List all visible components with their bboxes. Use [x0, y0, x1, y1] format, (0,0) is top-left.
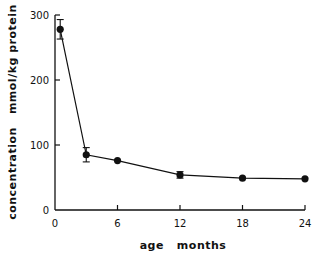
data-point [301, 175, 308, 182]
line-chart: 061218240100200300 age months concentrat… [0, 0, 319, 258]
x-tick-label: 0 [52, 218, 58, 229]
y-tick-label: 300 [30, 10, 49, 21]
y-tick-label: 100 [30, 140, 49, 151]
axes: 061218240100200300 [30, 10, 311, 229]
data-point [83, 151, 90, 158]
y-tick-label: 200 [30, 75, 49, 86]
x-tick-label: 12 [174, 218, 187, 229]
data-point [176, 171, 183, 178]
data-point [57, 26, 64, 33]
y-axis-title: concentration mmol/kg protein [6, 4, 19, 220]
x-axis-title: age months [140, 239, 227, 252]
data-point [114, 157, 121, 164]
plot-area [57, 20, 309, 183]
x-tick-label: 6 [114, 218, 120, 229]
x-tick-label: 24 [299, 218, 312, 229]
y-tick-label: 0 [43, 205, 49, 216]
data-point [239, 175, 246, 182]
x-tick-label: 18 [236, 218, 249, 229]
series-line [60, 29, 305, 179]
